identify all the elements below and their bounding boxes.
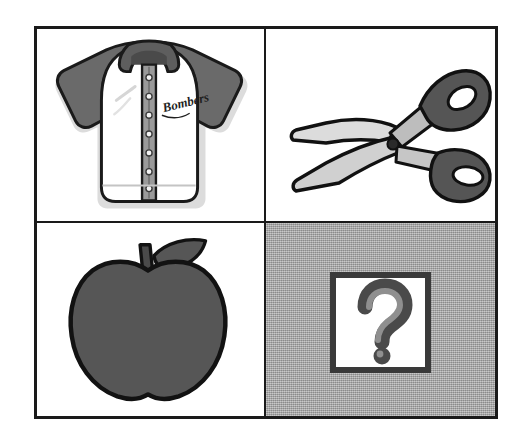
scissors-icon — [266, 29, 495, 223]
screenshot-stage: Baseball jersey — [0, 0, 524, 434]
panel-scissors[interactable]: Scissors — [266, 29, 495, 223]
question-mark-card: ? — [266, 223, 495, 417]
question-mark-dot-highlight — [377, 350, 384, 357]
scissors-pivot — [387, 138, 398, 149]
panel-question-mark[interactable]: Unknown / missing item ? — [266, 223, 495, 417]
scissors-blade-lower — [293, 137, 400, 191]
panel-apple[interactable]: Apple — [37, 223, 266, 417]
apple-body — [71, 261, 226, 398]
apple-icon — [37, 223, 264, 415]
panel-baseball-jersey[interactable]: Baseball jersey — [37, 29, 266, 223]
picture-grid: Baseball jersey — [34, 26, 498, 419]
baseball-jersey-icon: Bombers — [37, 29, 264, 221]
